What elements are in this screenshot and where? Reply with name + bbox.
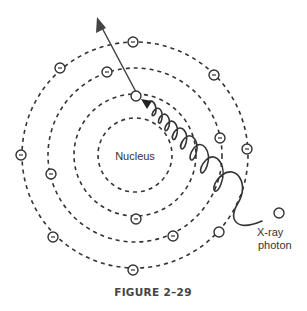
nucleus-label: Nucleus [115, 150, 155, 162]
photon-label-line2: photon [258, 239, 292, 251]
electron-icon [215, 133, 225, 143]
photon-marker [274, 208, 284, 218]
electron-icon [209, 70, 219, 80]
electron-icon [16, 150, 26, 160]
ejection-arrowhead-icon [96, 17, 106, 33]
photon-label-line1: X-ray [257, 226, 284, 238]
photoelectric-diagram: Nucleus X-ray photon FIGURE 2–29 [0, 0, 307, 311]
electron-icon [55, 63, 65, 73]
electron-icon [128, 37, 138, 47]
electron-icon [128, 265, 138, 275]
electron-icon [242, 144, 252, 154]
electron-icon [168, 231, 178, 241]
electron-icon [48, 232, 58, 242]
shell-4-vacancy [214, 227, 224, 237]
vacancies [131, 91, 224, 237]
xray-photon-wave [148, 101, 262, 225]
electron-icon [46, 169, 56, 179]
ejection-arrow-shaft [100, 24, 136, 92]
ejected-electron-origin [131, 91, 141, 101]
electron-icon [102, 67, 112, 77]
figure-caption: FIGURE 2–29 [114, 286, 192, 298]
electron-icon [131, 214, 141, 224]
